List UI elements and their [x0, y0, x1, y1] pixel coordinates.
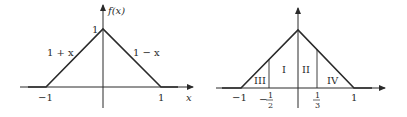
triangle-curve — [222, 30, 372, 88]
fraction-numerator: 1 — [315, 91, 320, 100]
tick-label-neg-half: − 1 2 — [259, 91, 273, 110]
tick-label-neg-one: −1 — [38, 92, 53, 103]
right-figure: III I II IV −1 1 − 1 2 1 3 — [216, 8, 385, 110]
fraction-denominator: 3 — [315, 101, 320, 110]
left-figure: f(x) 1 1 + x 1 − x −1 1 x — [20, 5, 193, 108]
tick-label-one-third: 1 3 — [313, 91, 320, 110]
diagram-canvas: f(x) 1 1 + x 1 − x −1 1 x III I II IV −1… — [0, 0, 407, 117]
fraction-sign: − — [259, 94, 267, 105]
region-label-iii: III — [254, 75, 266, 86]
peak-label: 1 — [92, 24, 98, 35]
left-piece-label: 1 + x — [47, 47, 74, 58]
tick-label-neg-one: −1 — [232, 92, 247, 103]
y-axis-label: f(x) — [107, 5, 125, 16]
region-label-i: I — [282, 64, 286, 75]
region-label-ii: II — [302, 64, 310, 75]
tick-label-one: 1 — [351, 92, 357, 103]
region-label-iv: IV — [327, 75, 339, 86]
tick-label-one: 1 — [158, 92, 164, 103]
fraction-numerator: 1 — [268, 91, 273, 100]
right-piece-label: 1 − x — [133, 47, 160, 58]
x-axis-label: x — [186, 92, 192, 103]
fraction-denominator: 2 — [268, 101, 273, 110]
